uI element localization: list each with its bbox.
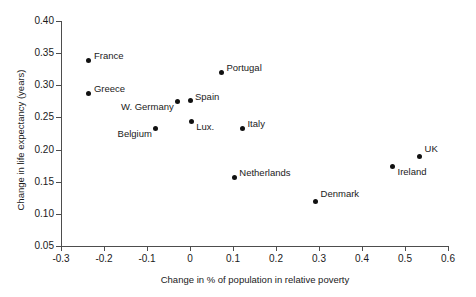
x-axis-tick [276, 246, 277, 251]
x-axis-line [61, 246, 449, 247]
x-axis-tick-label: 0.1 [226, 254, 240, 264]
y-axis-tick [56, 214, 61, 215]
y-axis-tick-label: 0.10 [35, 209, 54, 219]
x-axis-tick [61, 246, 62, 251]
data-point [240, 126, 245, 131]
y-axis-tick [56, 85, 61, 86]
scatter-chart: 0.050.100.150.200.250.300.350.40-0.3-0.2… [0, 0, 476, 297]
y-axis-tick-label: 0.35 [35, 48, 54, 58]
y-axis-tick-label: 0.20 [35, 145, 54, 155]
data-point [86, 91, 91, 96]
data-point [153, 126, 158, 131]
x-axis-tick [405, 246, 406, 251]
y-axis-tick-label: 0.40 [35, 16, 54, 26]
data-point [86, 58, 91, 63]
y-axis-title: Change in life expectancy (years) [14, 28, 28, 253]
y-axis-tick [56, 150, 61, 151]
x-axis-tick [104, 246, 105, 251]
y-axis-tick [56, 53, 61, 54]
x-axis-tick-label: -0.3 [52, 254, 69, 264]
x-axis-tick-label: 0.4 [355, 254, 369, 264]
data-point-label: UK [425, 144, 438, 154]
data-point-label: Ireland [398, 167, 427, 177]
data-point-label: Netherlands [239, 168, 290, 178]
x-axis-tick [448, 246, 449, 251]
x-axis-tick [147, 246, 148, 251]
y-axis-tick-label: 0.05 [35, 241, 54, 251]
data-point [189, 119, 194, 124]
data-point-label: Spain [195, 92, 219, 102]
x-axis-tick [233, 246, 234, 251]
data-point-label: Portugal [226, 63, 261, 73]
x-axis-tick-label: 0.5 [398, 254, 412, 264]
data-point-label: Belgium [118, 129, 152, 139]
data-point [219, 70, 224, 75]
x-axis-tick-label: -0.1 [138, 254, 155, 264]
data-point-label: Italy [247, 119, 264, 129]
x-axis-tick [190, 246, 191, 251]
x-axis-tick-label: 0 [187, 254, 193, 264]
y-axis-tick-label: 0.30 [35, 80, 54, 90]
y-axis-tick-label: 0.25 [35, 112, 54, 122]
y-axis-tick [56, 182, 61, 183]
data-point-label: France [94, 51, 124, 61]
data-point-label: Denmark [321, 189, 360, 199]
data-point [175, 99, 180, 104]
data-point [390, 164, 395, 169]
x-axis-tick-label: 0.2 [269, 254, 283, 264]
x-axis-title: Change in % of population in relative po… [61, 274, 449, 285]
data-point [313, 199, 318, 204]
plot-area: 0.050.100.150.200.250.300.350.40-0.3-0.2… [61, 21, 448, 246]
data-point [417, 154, 422, 159]
y-axis-tick [56, 117, 61, 118]
y-axis-tick-label: 0.15 [35, 177, 54, 187]
data-point [232, 175, 237, 180]
data-point-label: W. Germany [121, 102, 174, 112]
data-point-label: Lux. [196, 122, 214, 132]
x-axis-tick-label: 0.3 [312, 254, 326, 264]
y-axis-tick [56, 21, 61, 22]
x-axis-tick [319, 246, 320, 251]
x-axis-tick-label: 0.6 [441, 254, 455, 264]
data-point-label: Greece [94, 84, 125, 94]
x-axis-tick-label: -0.2 [95, 254, 112, 264]
data-point [188, 98, 193, 103]
x-axis-tick [362, 246, 363, 251]
